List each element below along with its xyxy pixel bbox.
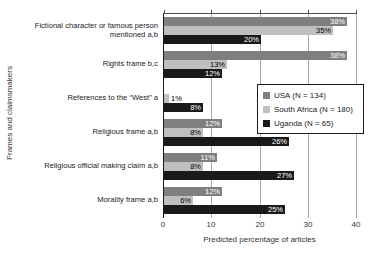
legend-label: USA (N = 134) bbox=[274, 91, 326, 100]
bar-value-label: 6% bbox=[164, 196, 193, 205]
legend-swatch-icon bbox=[263, 120, 270, 127]
x-axis-tick bbox=[260, 10, 261, 14]
legend-label: Uganda (N = 65) bbox=[274, 119, 333, 128]
x-axis-tick bbox=[211, 10, 212, 14]
category-label: Religious frame a,b bbox=[12, 127, 158, 136]
x-tick-label-0: 0 bbox=[151, 220, 175, 229]
x-tick-label-40: 40 bbox=[344, 220, 368, 229]
bar-value-label: 8% bbox=[164, 162, 203, 171]
bar-value-label: 38% bbox=[164, 51, 347, 60]
bar-value-label: 8% bbox=[164, 103, 203, 112]
legend-item: USA (N = 134) bbox=[263, 88, 358, 102]
bar-chart: Frames and claimsmakers Fictional charac… bbox=[0, 0, 372, 259]
legend-label: South Africa (N = 180) bbox=[274, 105, 353, 114]
bar-value-label: 38% bbox=[164, 17, 347, 26]
bar-value-label: 13% bbox=[164, 60, 227, 69]
bar-value-label: 8% bbox=[164, 128, 203, 137]
bar-value-label: 27% bbox=[164, 171, 294, 180]
bar-value-label: 12% bbox=[164, 187, 222, 196]
bar bbox=[164, 94, 169, 103]
x-axis-title: Predicted percentage of articles bbox=[163, 235, 356, 244]
bar-value-label: 20% bbox=[164, 35, 261, 44]
category-label: Rights frame b,c bbox=[12, 59, 158, 68]
x-tick-label-10: 10 bbox=[199, 220, 223, 229]
bar-value-label: 12% bbox=[164, 69, 222, 78]
category-label: Fictional character or famous person men… bbox=[12, 21, 158, 39]
bar-value-label: 12% bbox=[164, 119, 222, 128]
bar-value-label: 11% bbox=[164, 153, 217, 162]
y-axis-title: Frames and claimsmakers bbox=[5, 66, 14, 160]
x-tick-label-30: 30 bbox=[296, 220, 320, 229]
x-axis-tick bbox=[308, 10, 309, 14]
bar-value-label: 25% bbox=[164, 205, 285, 214]
category-label: References to the “West” a bbox=[12, 93, 158, 102]
legend-item: Uganda (N = 65) bbox=[263, 116, 358, 130]
bar-value-label: 26% bbox=[164, 137, 289, 146]
legend: USA (N = 134)South Africa (N = 180)Ugand… bbox=[257, 84, 364, 134]
bar-value-label: 35% bbox=[164, 26, 333, 35]
category-label: Morality frame a,b bbox=[12, 195, 158, 204]
legend-item: South Africa (N = 180) bbox=[263, 102, 358, 116]
bar-value-label: 1% bbox=[171, 94, 182, 103]
legend-swatch-icon bbox=[263, 106, 270, 113]
x-axis-tick bbox=[164, 10, 165, 14]
x-axis-tick bbox=[356, 10, 357, 14]
category-label: Religious official making claim a,b bbox=[12, 161, 158, 170]
x-tick-label-20: 20 bbox=[248, 220, 272, 229]
legend-swatch-icon bbox=[263, 92, 270, 99]
